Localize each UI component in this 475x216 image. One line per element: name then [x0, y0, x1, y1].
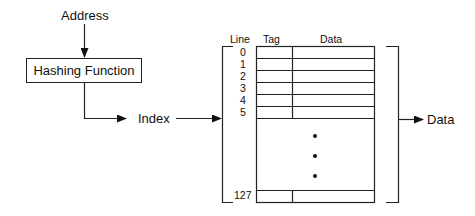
index-label: Index — [138, 112, 170, 125]
line-number: 4 — [240, 95, 246, 106]
line-number: 2 — [240, 71, 246, 82]
line-number: 1 — [240, 59, 246, 70]
column-header-line: Line — [230, 34, 250, 45]
line-number: 3 — [240, 83, 246, 94]
hashing-function-label: Hashing Function — [33, 63, 134, 78]
hashing-function-box: Hashing Function — [26, 58, 142, 83]
line-number: 0 — [240, 47, 246, 58]
address-label: Address — [61, 9, 109, 22]
ellipsis-dot — [313, 154, 317, 158]
data-output-label: Data — [427, 113, 454, 126]
column-header-data: Data — [320, 34, 342, 45]
ellipsis-dot — [313, 134, 317, 138]
line-number-last: 127 — [234, 190, 252, 201]
ellipsis-dot — [313, 174, 317, 178]
column-header-tag: Tag — [263, 34, 280, 45]
line-number: 5 — [240, 107, 246, 118]
